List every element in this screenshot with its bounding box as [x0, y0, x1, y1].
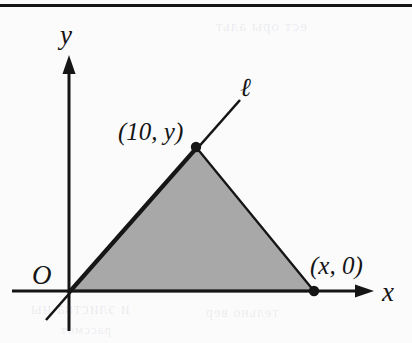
apex-point-label: (10, y) — [118, 119, 183, 144]
x-axis-label: x — [382, 279, 394, 306]
x-axis-arrowhead-icon — [355, 285, 374, 298]
line-ell-label: ℓ — [240, 74, 251, 100]
shaded-triangle — [69, 147, 314, 291]
y-axis-label: y — [60, 22, 72, 49]
geometry-figure: y x O ℓ (10, y) (x, 0) ест оры альт и эл… — [0, 0, 412, 343]
figure-canvas — [0, 0, 412, 343]
x-intercept-point-marker — [309, 286, 319, 296]
origin-label: O — [32, 262, 52, 289]
y-axis-arrowhead-icon — [63, 55, 76, 74]
x-intercept-point-label: (x, 0) — [310, 253, 363, 278]
apex-point-marker — [191, 142, 201, 152]
